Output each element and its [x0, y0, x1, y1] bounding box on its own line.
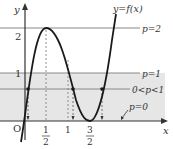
label-p1: p=1 [142, 69, 161, 79]
x-tick-half-num: 1 [43, 125, 49, 135]
graph-figure: y x O 2 1 1 2 1 3 2 y=f(x) p=2 p=1 0<p<1… [0, 0, 173, 149]
origin-label: O [13, 123, 21, 134]
y-axis-arrow-icon [22, 3, 28, 10]
y-tick-2: 2 [15, 31, 21, 42]
x-axis-label: x [163, 125, 169, 136]
y-axis-label: y [13, 4, 20, 15]
y-tick-1: 1 [15, 68, 21, 79]
curve-label: y=f(x) [112, 3, 143, 14]
label-p2: p=2 [142, 24, 161, 34]
x-tick-half-den: 2 [43, 137, 49, 147]
x-tick-three-half-den: 2 [87, 137, 93, 147]
x-tick-one: 1 [65, 125, 71, 135]
label-p-between: 0<p<1 [132, 85, 164, 95]
intersection-point [71, 87, 75, 91]
intersection-point [26, 87, 30, 91]
label-p0: p=0 [129, 102, 148, 112]
x-tick-three-half-num: 3 [87, 125, 93, 135]
intersection-point [100, 87, 104, 91]
